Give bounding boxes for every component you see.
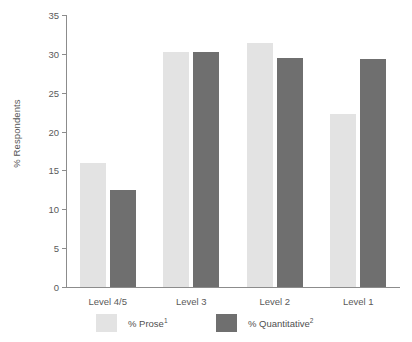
y-tick-label: 5 bbox=[54, 243, 59, 254]
bar-chart: % Respondents 05101520253035 Level 4/5Le… bbox=[0, 0, 412, 342]
bar-quantitative[interactable] bbox=[193, 52, 219, 287]
y-tick-label: 20 bbox=[48, 126, 59, 137]
x-tick-label: Level 1 bbox=[317, 296, 401, 307]
bar-group: Level 2 bbox=[233, 15, 317, 287]
legend-entry[interactable]: % Quantitative2 bbox=[216, 313, 313, 333]
legend-label: % Prose1 bbox=[128, 318, 168, 329]
y-axis-title: % Respondents bbox=[11, 74, 22, 194]
legend-label: % Quantitative2 bbox=[248, 318, 313, 329]
y-tick-label: 0 bbox=[54, 282, 59, 293]
y-tick-label: 35 bbox=[48, 10, 59, 21]
bar-quantitative[interactable] bbox=[360, 59, 386, 287]
bar-group: Level 4/5 bbox=[66, 15, 150, 287]
y-tick-label: 30 bbox=[48, 48, 59, 59]
plot-area: 05101520253035 Level 4/5Level 3Level 2Le… bbox=[66, 15, 400, 287]
legend-footnote-marker: 1 bbox=[164, 316, 168, 323]
bar-quantitative[interactable] bbox=[110, 190, 136, 287]
x-tick-label: Level 4/5 bbox=[66, 296, 150, 307]
legend-swatch-icon bbox=[96, 314, 117, 332]
x-tick-label: Level 3 bbox=[150, 296, 234, 307]
legend-footnote-marker: 2 bbox=[310, 316, 314, 323]
y-tick-label: 15 bbox=[48, 165, 59, 176]
bar-prose[interactable] bbox=[163, 52, 189, 287]
bar-prose[interactable] bbox=[80, 163, 106, 287]
bar-quantitative[interactable] bbox=[277, 58, 303, 287]
chart-legend: % Prose1% Quantitative2 bbox=[66, 313, 400, 337]
bar-group: Level 3 bbox=[150, 15, 234, 287]
legend-swatch-icon bbox=[216, 314, 237, 332]
bar-prose[interactable] bbox=[330, 114, 356, 287]
y-tick-label: 25 bbox=[48, 87, 59, 98]
bar-group: Level 1 bbox=[317, 15, 401, 287]
bar-prose[interactable] bbox=[247, 43, 273, 287]
y-tick-mark bbox=[62, 287, 66, 288]
x-axis-line bbox=[66, 287, 400, 288]
x-tick-label: Level 2 bbox=[233, 296, 317, 307]
legend-entry[interactable]: % Prose1 bbox=[96, 313, 168, 333]
y-tick-label: 10 bbox=[48, 204, 59, 215]
